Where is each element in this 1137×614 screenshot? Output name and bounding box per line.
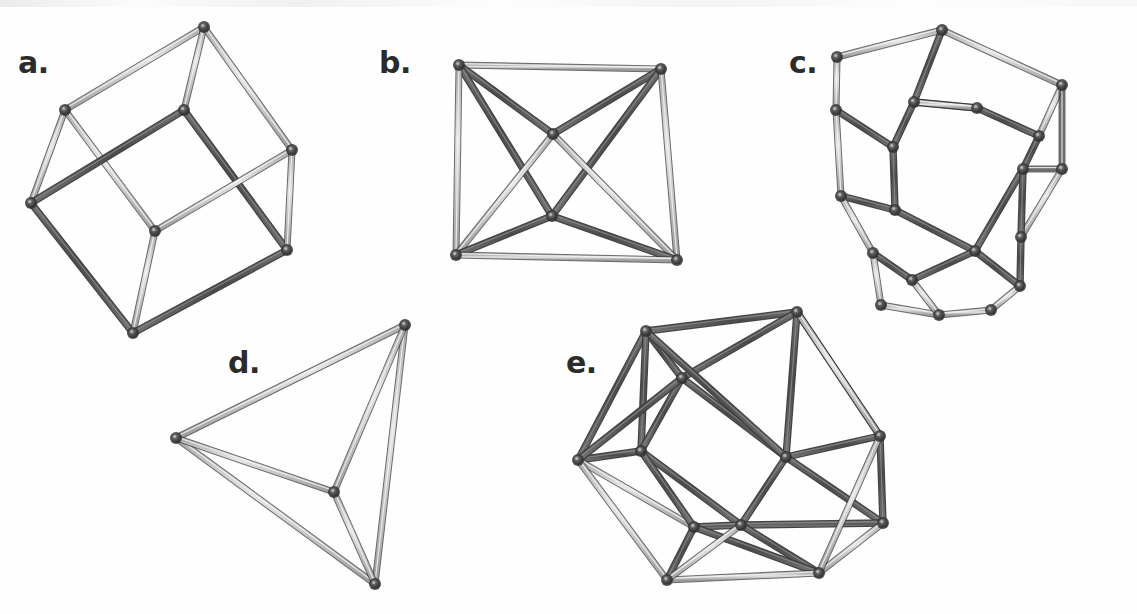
vertex-joint (933, 309, 945, 321)
solids-layer (25, 21, 1068, 590)
vertex-joint (170, 432, 182, 444)
vertex-joint (877, 517, 889, 529)
strut (65, 26, 204, 110)
strut (914, 101, 977, 108)
vertex-joint (1015, 231, 1027, 243)
panel-label-b: b. (379, 48, 411, 78)
strut (893, 101, 914, 147)
vertex-joint (178, 104, 190, 116)
strut (667, 572, 819, 580)
strut (641, 450, 741, 525)
vertex-joint (688, 521, 700, 533)
strut (578, 459, 694, 527)
vertex-joint (936, 24, 948, 36)
figure-canvas: a. b. c. d. e. (0, 0, 1137, 614)
strut (661, 68, 677, 260)
strut (578, 459, 667, 580)
vertex-joint (889, 204, 901, 216)
vertex-joint (572, 454, 584, 466)
vertex-joint (655, 63, 667, 75)
strut (977, 107, 1039, 136)
strut (939, 309, 991, 315)
strut (895, 209, 975, 251)
strut (553, 68, 661, 134)
strut (741, 456, 786, 525)
strut (741, 522, 883, 525)
vertex-joint (59, 104, 71, 116)
vertex-joint (985, 304, 997, 316)
vertex-joint (969, 245, 981, 257)
strut (133, 249, 287, 333)
vertex-joint (971, 102, 983, 114)
strut (204, 26, 292, 150)
strut (459, 64, 553, 134)
strut (641, 330, 646, 451)
vertex-joint (635, 445, 647, 457)
vertex-joint (1014, 280, 1026, 292)
strut (1021, 168, 1062, 237)
platonic-solids-diagram (0, 0, 1137, 614)
solid-icosahedron (572, 306, 889, 586)
vertex-joint (908, 96, 920, 108)
panel-label-c: c. (789, 48, 817, 78)
strut (836, 109, 893, 147)
solid-octahedron (450, 59, 683, 266)
vertex-joint (831, 51, 843, 63)
strut (459, 64, 661, 69)
vertex-joint (450, 249, 462, 261)
strut (1020, 236, 1021, 286)
strut (912, 250, 975, 280)
vertex-joint (25, 197, 37, 209)
vertex-joint (546, 210, 558, 222)
strut (880, 435, 883, 523)
strut (176, 324, 405, 438)
vertex-joint (835, 190, 847, 202)
strut (837, 29, 942, 57)
strut (1021, 168, 1023, 237)
vertex-joint (780, 451, 792, 463)
strut (578, 377, 682, 460)
panel-label-d: d. (228, 348, 260, 378)
vertex-joint (830, 104, 842, 116)
vertex-joint (127, 327, 139, 339)
vertex-joint (281, 244, 293, 256)
vertex-joint (1033, 130, 1045, 142)
vertex-joint (198, 21, 210, 33)
strut (176, 437, 334, 492)
strut (552, 68, 661, 216)
vertex-joint (149, 225, 161, 237)
strut (942, 29, 1062, 85)
vertex-joint (887, 141, 899, 153)
vertex-joint (547, 128, 559, 140)
vertex-joint (875, 299, 887, 311)
vertex-joint (676, 372, 688, 384)
vertex-joint (286, 144, 298, 156)
strut (836, 109, 841, 196)
strut (975, 250, 1020, 286)
strut (31, 202, 133, 333)
vertex-joint (661, 574, 673, 586)
strut (133, 230, 155, 333)
vertex-joint (671, 254, 683, 266)
vertex-joint (874, 430, 886, 442)
vertex-joint (1017, 163, 1029, 175)
strut (893, 146, 895, 210)
strut (797, 311, 880, 436)
strut (31, 109, 184, 203)
vertex-joint (640, 325, 652, 337)
strut (786, 435, 880, 457)
vertex-joint (735, 519, 747, 531)
strut (786, 311, 797, 457)
vertex-joint (1056, 79, 1068, 91)
vertex-joint (813, 567, 825, 579)
strut (287, 149, 292, 250)
vertex-joint (791, 306, 803, 318)
vertex-joint (453, 59, 465, 71)
vertex-joint (906, 274, 918, 286)
solid-cube (25, 21, 298, 339)
strut (836, 56, 837, 110)
solid-tetrahedron (170, 319, 411, 590)
strut (456, 64, 459, 255)
vertex-joint (399, 319, 411, 331)
panel-label-e: e. (566, 348, 597, 378)
